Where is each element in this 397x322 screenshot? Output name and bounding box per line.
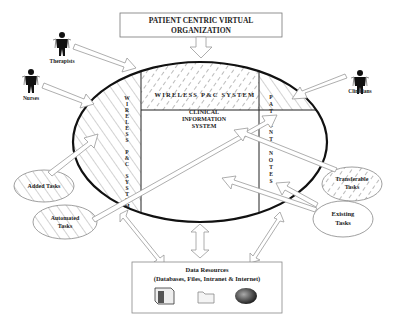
automated-tasks-label-2: Tasks: [58, 223, 73, 229]
automated-tasks-label-1: Automated: [51, 215, 80, 221]
nurses-arrow: [42, 83, 94, 108]
svg-text:T: T: [269, 108, 273, 114]
clinical-label-3: SYSTEM: [192, 123, 217, 129]
actor-therapists: Therapists: [49, 32, 74, 64]
nurses-label: Nurses: [23, 95, 39, 101]
transferable-tasks-label-2: Tasks: [345, 184, 360, 190]
therapists-arrow: [73, 44, 136, 72]
title-line1: PATIENT CENTRIC VIRTUAL: [149, 16, 254, 25]
clinicians-arrow: [292, 74, 347, 99]
clinical-label-1: CLINICAL: [189, 109, 219, 115]
task-transferable: Transferable Tasks: [322, 167, 382, 201]
globe-icon: [235, 288, 257, 304]
person-icon: [53, 32, 71, 56]
title-box: PATIENT CENTRIC VIRTUAL ORGANIZATION: [120, 13, 282, 37]
svg-text:C: C: [125, 161, 129, 167]
actor-clinicians: Clinicians: [348, 70, 372, 94]
svg-text:A: A: [269, 101, 273, 107]
svg-text:N: N: [269, 129, 273, 135]
svg-text:E: E: [269, 171, 273, 177]
data-arrow-right: [250, 212, 284, 263]
task-added: Added Tasks: [14, 170, 74, 202]
data-resources-box: Data Resources (Databases, Files, Intran…: [132, 262, 282, 313]
added-tasks-label: Added Tasks: [28, 183, 62, 189]
svg-text:S: S: [269, 178, 272, 184]
svg-text:O: O: [269, 157, 274, 163]
task-automated: Automated Tasks: [33, 205, 97, 239]
actor-nurses: Nurses: [22, 69, 40, 101]
svg-text:N: N: [269, 150, 273, 156]
therapists-label: Therapists: [49, 58, 74, 64]
wireless-top-label: WIRELESS P&C SYSTEM: [155, 91, 256, 98]
patient-centric-diagram: PATIENT CENTRIC VIRTUAL ORGANIZATION WIR…: [0, 0, 397, 322]
data-arrow-center: [191, 224, 209, 258]
folder-icon: [198, 292, 214, 303]
transferable-tasks-label-1: Transferable: [336, 176, 369, 182]
wireless-column: [70, 60, 141, 230]
data-resources-title: Data Resources: [185, 266, 228, 273]
server-icon: [155, 288, 174, 304]
task-existing: Existing Tasks: [313, 201, 373, 237]
existing-tasks-label-2: Tasks: [335, 219, 351, 226]
svg-text:S: S: [125, 137, 128, 143]
title-line2: ORGANIZATION: [171, 26, 231, 35]
existing-tasks-label-1: Existing: [332, 210, 356, 217]
person-icon: [22, 69, 40, 93]
data-resources-subtitle: (Databases, Files, Intranet & Internet): [154, 275, 261, 283]
svg-text:T: T: [269, 164, 273, 170]
clinicians-label: Clinicians: [348, 88, 372, 94]
wireless-band: [141, 60, 259, 110]
title-down-arrow: [190, 37, 212, 58]
clinical-label-2: INFORMATION: [182, 116, 227, 122]
